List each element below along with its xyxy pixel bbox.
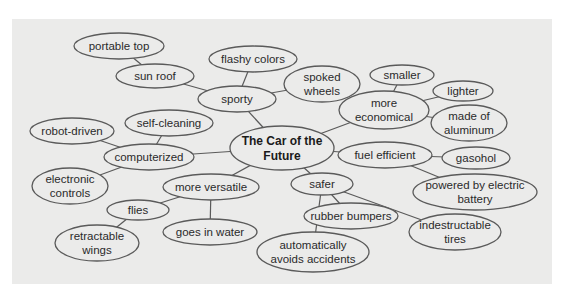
node-electronic-controls: electroniccontrols [32, 168, 108, 204]
node-label: portable top [89, 40, 150, 52]
node-label: robot-driven [41, 125, 102, 137]
node-label: rubber bumpers [310, 210, 391, 222]
node-label: made of [448, 110, 490, 122]
node-label: goes in water [176, 226, 245, 238]
node-retractable-wings: retractablewings [55, 225, 139, 261]
node-computerized: computerized [104, 144, 194, 170]
node-label: powered by electric [425, 179, 524, 191]
node-label: The Car of the [242, 134, 323, 148]
node-label: tires [444, 233, 466, 245]
node-label: flashy colors [221, 53, 285, 65]
node-more-versatile: more versatile [163, 174, 259, 200]
node-goes-in-water: goes in water [163, 219, 257, 245]
node-gasohol: gasohol [442, 147, 510, 169]
node-label: Future [263, 149, 301, 163]
node-label: retractable [70, 230, 124, 242]
node-flashy-colors: flashy colors [209, 46, 297, 72]
node-label: sun roof [134, 70, 176, 82]
cluster-diagram: portable topsun roofflashy colorssportys… [0, 0, 569, 299]
node-fuel-efficient: fuel efficient [338, 142, 432, 168]
node-label: economical [355, 111, 413, 123]
node-label: more [371, 97, 397, 109]
node-label: wheels [303, 85, 340, 97]
node-label: self-cleaning [137, 117, 202, 129]
node-sun-roof: sun roof [116, 64, 194, 88]
node-label: gasohol [456, 152, 496, 164]
node-label: spoked [303, 71, 340, 83]
node-label: lighter [447, 85, 478, 97]
node-label: more versatile [175, 181, 247, 193]
node-smaller: smaller [370, 65, 434, 85]
node-label: indestructable [419, 219, 491, 231]
node-label: flies [128, 204, 149, 216]
node-made-of-aluminum: made ofaluminum [431, 105, 507, 141]
node-automatically-avoids-accidents: automaticallyavoids accidents [257, 232, 369, 272]
node-robot-driven: robot-driven [30, 118, 114, 144]
node-label: wings [81, 244, 112, 256]
node-label: smaller [383, 69, 420, 81]
node-portable-top: portable top [74, 33, 164, 59]
node-label: aluminum [444, 124, 494, 136]
node-label: battery [457, 193, 492, 205]
central-topic-node: The Car of theFuture [230, 126, 334, 170]
node-powered-by-electric-battery: powered by electricbattery [413, 174, 537, 210]
node-indestructable-tires: indestructabletires [409, 214, 501, 250]
node-label: computerized [114, 151, 183, 163]
diagram-nodes: portable topsun roofflashy colorssportys… [30, 33, 537, 272]
node-more-economical: moreeconomical [339, 91, 429, 129]
node-flies: flies [107, 200, 169, 220]
node-label: automatically [279, 239, 346, 251]
node-spoked-wheels: spokedwheels [284, 66, 360, 102]
node-sporty: sporty [198, 86, 276, 112]
node-label: safer [309, 178, 335, 190]
node-label: fuel efficient [354, 149, 416, 161]
node-label: avoids accidents [270, 253, 355, 265]
node-label: controls [50, 187, 91, 199]
node-self-cleaning: self-cleaning [125, 110, 213, 136]
node-safer: safer [291, 173, 353, 195]
node-label: sporty [221, 93, 253, 105]
node-lighter: lighter [433, 81, 493, 101]
node-rubber-bumpers: rubber bumpers [304, 203, 398, 229]
node-label: electronic [45, 173, 94, 185]
